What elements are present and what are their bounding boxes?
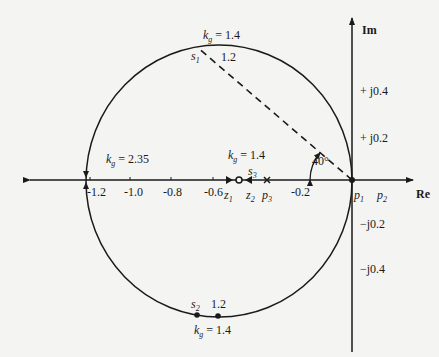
label-p3: p3 bbox=[262, 189, 272, 204]
label-s1: s1 bbox=[191, 50, 200, 65]
tick-label-neg0.2: -0.2 bbox=[291, 186, 310, 198]
angle-label: 40° bbox=[312, 155, 329, 167]
tick-label-neg0.6: -0.6 bbox=[204, 186, 223, 198]
tick-label-j0.4: + j0.4 bbox=[360, 85, 388, 97]
label-s2: s2 bbox=[191, 298, 200, 313]
label-z1: z1 bbox=[224, 189, 233, 204]
gain-label-bottom: kg = 1.4 bbox=[194, 324, 231, 339]
label-z2: z2 bbox=[246, 189, 255, 204]
gain-label-breakaway: kg = 2.35 bbox=[106, 153, 149, 168]
gain-label-top-alt: 1.2 bbox=[221, 51, 236, 63]
pole-p1 bbox=[349, 177, 355, 183]
gain-label-top: kg = 1.4 bbox=[203, 29, 240, 44]
gain-label-bottom-alt: 1.2 bbox=[211, 298, 226, 310]
tick-label-neg1.0: -1.0 bbox=[124, 186, 143, 198]
root-locus-circle bbox=[86, 45, 352, 317]
real-axis-label: Re bbox=[416, 188, 430, 200]
tick-label-neg-j0.2: −j0.2 bbox=[360, 218, 385, 230]
label-p1: p1 bbox=[354, 189, 364, 204]
tick-label-neg-j0.4: −j0.4 bbox=[360, 263, 385, 275]
gain-label-axis: kg = 1.4 bbox=[228, 149, 265, 164]
point-s2 bbox=[194, 312, 200, 318]
tick-label-neg1.2: -1.2 bbox=[87, 186, 106, 198]
point-k1.2-bottom bbox=[215, 313, 221, 319]
label-p2: p2 bbox=[377, 189, 387, 204]
imag-axis-label: Im bbox=[362, 24, 377, 36]
label-s3: s3 bbox=[248, 165, 257, 180]
tick-label-j0.2: + j0.2 bbox=[360, 132, 388, 144]
tick-label-neg0.8: -0.8 bbox=[163, 186, 182, 198]
root-locus-diagram: Im Re -1.2 -1.0 -0.8 -0.6 -0.2 + j0.4 + … bbox=[0, 0, 439, 357]
